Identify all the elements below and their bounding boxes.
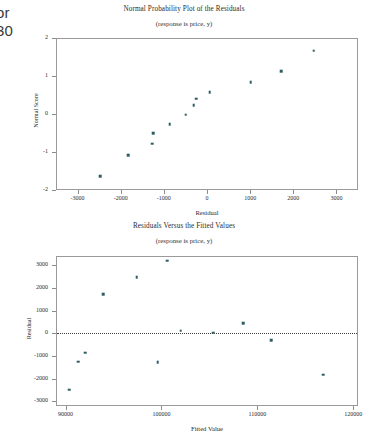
data-point: [102, 293, 105, 296]
x-axis-tick: [257, 406, 258, 410]
data-point: [152, 132, 155, 135]
data-point: [212, 331, 215, 334]
y-axis-tick-label: 1: [14, 72, 48, 78]
y-axis-tick-label: 1000: [14, 307, 48, 313]
figure-1-subtitle: (response is price, y): [0, 20, 368, 27]
x-axis-tick-label: -1000: [144, 195, 184, 201]
x-axis-tick-label: -2000: [101, 195, 141, 201]
y-axis-tick-label: -3000: [14, 397, 48, 403]
y-axis-tick: [52, 333, 56, 334]
y-axis-tick-label: -2000: [14, 375, 48, 381]
y-axis-tick: [52, 288, 56, 289]
y-axis-tick-label: 2: [14, 34, 48, 40]
y-axis-tick: [52, 265, 56, 266]
x-axis-tick: [207, 190, 208, 194]
data-point: [185, 113, 188, 116]
y-axis-tick: [52, 401, 56, 402]
normal-probability-plot-area: [56, 38, 358, 190]
data-point: [249, 81, 252, 84]
y-axis-tick: [52, 152, 56, 153]
y-axis-tick: [52, 114, 56, 115]
y-axis-tick-label: 0: [14, 329, 48, 335]
x-axis-tick-label: 1000: [230, 195, 270, 201]
data-point: [156, 361, 159, 364]
x-axis-tick-label: 100000: [141, 411, 181, 417]
x-axis-tick-label: 110000: [237, 411, 277, 417]
data-point: [166, 259, 169, 262]
x-axis-tick-label: 0: [187, 195, 227, 201]
x-axis-tick-label: 90000: [46, 411, 86, 417]
x-axis-tick-label: -3000: [58, 195, 98, 201]
zero-reference-line: [57, 333, 357, 334]
data-point: [84, 352, 87, 355]
y-axis-tick: [52, 38, 56, 39]
data-point: [169, 123, 172, 126]
data-point: [151, 142, 154, 145]
data-point: [135, 276, 138, 279]
data-point: [68, 388, 71, 391]
data-point: [127, 154, 130, 157]
x-axis-tick: [66, 406, 67, 410]
x-axis-tick-label: 2000: [273, 195, 313, 201]
y-axis-tick: [52, 190, 56, 191]
x-axis-tick: [353, 406, 354, 410]
y-axis-tick-label: -1000: [14, 352, 48, 358]
data-point: [242, 322, 245, 325]
y-axis-tick: [52, 76, 56, 77]
data-point: [77, 360, 80, 363]
x-axis-tick: [161, 406, 162, 410]
x-axis-tick-label: 3000: [316, 195, 356, 201]
data-point: [270, 339, 273, 342]
figure-1-title: Normal Probability Plot of the Residuals: [0, 5, 368, 13]
figure-2-subtitle: (response is price, y): [0, 237, 368, 244]
y-axis-tick-label: 3000: [14, 261, 48, 267]
data-point: [99, 175, 102, 178]
data-point: [208, 91, 211, 94]
x-axis-tick-label: 120000: [333, 411, 368, 417]
figure-1-x-axis-title: Residual: [56, 209, 358, 216]
data-point: [193, 104, 196, 107]
data-point: [195, 98, 198, 101]
x-axis-tick: [293, 190, 294, 194]
x-axis-tick: [121, 190, 122, 194]
y-axis-tick: [52, 379, 56, 380]
data-point: [280, 70, 283, 73]
residuals-versus-fitted-plot-area: [56, 256, 358, 406]
y-axis-tick-label: 2000: [14, 284, 48, 290]
y-axis-tick: [52, 356, 56, 357]
y-axis-tick: [52, 311, 56, 312]
residuals-versus-fitted-figure: Residuals Versus the Fitted Values (resp…: [0, 222, 368, 441]
x-axis-tick: [336, 190, 337, 194]
data-point: [312, 49, 315, 52]
y-axis-tick-label: -2: [14, 186, 48, 192]
y-axis-tick-label: 0: [14, 110, 48, 116]
data-point: [180, 329, 183, 332]
x-axis-tick: [164, 190, 165, 194]
normal-probability-plot-figure: Normal Probability Plot of the Residuals…: [0, 0, 368, 218]
figure-2-title: Residuals Versus the Fitted Values: [0, 222, 368, 230]
x-axis-tick: [250, 190, 251, 194]
y-axis-tick-label: -1: [14, 148, 48, 154]
x-axis-tick: [78, 190, 79, 194]
figure-2-x-axis-title: Fitted Value: [56, 425, 358, 432]
data-point: [322, 373, 325, 376]
